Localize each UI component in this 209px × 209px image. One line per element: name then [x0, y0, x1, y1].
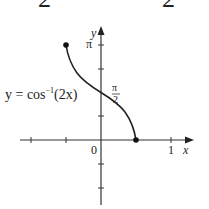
function-label-text: y = cos	[5, 87, 46, 102]
pi-tick-label: π	[86, 37, 92, 52]
closed-endpoint-left	[63, 42, 69, 48]
x-one-label: 1	[168, 143, 174, 158]
function-label-argument: (2x)	[54, 87, 77, 102]
graph	[0, 0, 209, 209]
x-axis-label: x	[183, 143, 188, 158]
pi-half-numerator: π	[112, 82, 117, 93]
closed-endpoint-right	[133, 137, 139, 143]
y-axis-arrow-icon	[98, 26, 105, 35]
function-label-superscript: −1	[46, 86, 55, 95]
function-label: y = cos−1(2x)	[5, 86, 77, 103]
origin-label: 0	[91, 143, 97, 158]
pi-half-denominator: 2	[113, 94, 118, 105]
